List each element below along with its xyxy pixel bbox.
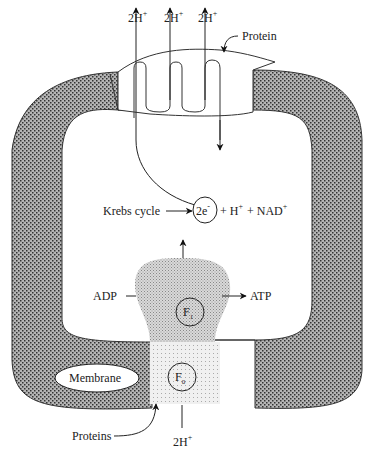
membrane-label-group: Membrane (55, 364, 139, 392)
proteins-label: Proteins (72, 429, 112, 443)
krebs-label: Krebs cycle (103, 204, 160, 218)
proton-label-3: 2H+ (198, 9, 218, 25)
proton-label-1: 2H+ (128, 9, 148, 25)
top-protein-complex (110, 49, 275, 140)
top-proton-labels: 2H+ 2H+ 2H+ (128, 9, 218, 25)
bottom-proton: 2H+ (173, 405, 193, 449)
f1-complex: F1 (135, 258, 230, 342)
adp-label: ADP (93, 289, 117, 303)
krebs-row: Krebs cycle 2e- + H+ + NAD+ (103, 197, 288, 223)
proton-label-2: 2H+ (164, 9, 184, 25)
h-plus-label: + H+ (220, 202, 243, 218)
bottom-proton-label: 2H+ (173, 433, 193, 449)
proteins-pointer: Proteins (72, 404, 156, 443)
nad-label: + NAD+ (247, 202, 288, 218)
membrane-label: Membrane (69, 371, 121, 385)
chemiosmosis-diagram: 2H+ 2H+ 2H+ Protein Krebs cycle 2e- + H+… (0, 0, 371, 455)
f0-complex: F0 (150, 342, 220, 404)
electron-path (136, 140, 195, 205)
atp-label: ATP (250, 289, 272, 303)
protein-pointer: Protein (224, 29, 277, 52)
protein-label: Protein (242, 29, 277, 43)
